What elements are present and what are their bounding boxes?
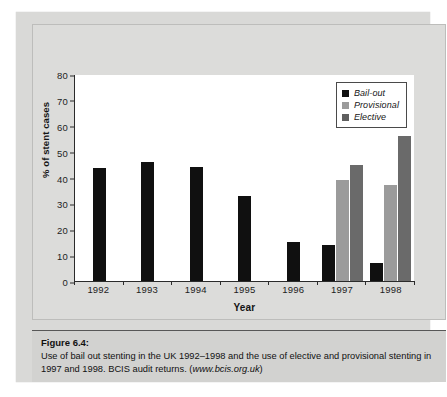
legend-label-elective: Elective <box>354 112 386 122</box>
bar-1997-bail-out <box>322 245 335 281</box>
y-tick-20: 20 <box>57 225 75 236</box>
plot-region: 80706050403020100 Bail-out Provisional <box>74 75 414 282</box>
x-tick-label-1992: 1992 <box>74 284 123 300</box>
caption-line-1: Use of bail out stenting in the UK 1992–… <box>41 351 431 361</box>
bar-1998-provisional <box>384 185 397 281</box>
chart-card: % of stent cases 80706050403020100 Bail-… <box>32 24 446 320</box>
bar-1994-bail-out <box>190 167 203 281</box>
caption-line-2-pre: 1997 and 1998. BCIS audit returns. ( <box>41 364 192 374</box>
y-tick-70: 70 <box>57 95 75 106</box>
x-tick-label-1998: 1998 <box>366 284 415 300</box>
y-tick-60: 60 <box>57 121 75 132</box>
y-tick-30: 30 <box>57 199 75 210</box>
legend-item-bail-out: Bail-out <box>342 87 399 99</box>
caption-url: www.bcis.org.uk <box>192 364 259 374</box>
y-axis-title: % of stent cases <box>40 102 51 178</box>
legend-item-provisional: Provisional <box>342 99 399 111</box>
bar-1992-bail-out <box>93 168 106 281</box>
bar-1997-elective <box>350 165 363 281</box>
y-tick-80: 80 <box>57 70 75 81</box>
caption-title: Figure 6.4: <box>41 337 437 348</box>
legend-swatch-bail-out <box>342 90 349 97</box>
y-tick-40: 40 <box>57 173 75 184</box>
bar-group-1992 <box>75 75 124 281</box>
x-tick-label-1993: 1993 <box>123 284 172 300</box>
bar-1998-elective <box>398 136 411 281</box>
legend-label-bail-out: Bail-out <box>354 88 385 98</box>
bar-1998-bail-out <box>370 263 383 281</box>
bar-1997-provisional <box>336 180 349 281</box>
x-tick-label-1994: 1994 <box>171 284 220 300</box>
bar-group-1995 <box>221 75 270 281</box>
figure-page: % of stent cases 80706050403020100 Bail-… <box>0 0 447 397</box>
y-tick-10: 10 <box>57 251 75 262</box>
bar-1993-bail-out <box>141 162 154 281</box>
x-axis-title: Year <box>74 302 415 313</box>
bar-group-1996 <box>269 75 318 281</box>
x-tick-label-1995: 1995 <box>220 284 269 300</box>
x-tick-label-1996: 1996 <box>269 284 318 300</box>
figure-caption: Figure 6.4: Use of bail out stenting in … <box>32 330 446 382</box>
caption-line-2-post: ) <box>260 364 263 374</box>
legend-swatch-provisional <box>342 102 349 109</box>
bar-1996-bail-out <box>287 242 300 281</box>
bar-group-1994 <box>172 75 221 281</box>
bar-1995-bail-out <box>238 196 251 281</box>
x-axis-labels: 1992199319941995199619971998 <box>74 284 415 300</box>
caption-text: Use of bail out stenting in the UK 1992–… <box>41 350 437 375</box>
legend-label-provisional: Provisional <box>354 100 399 110</box>
x-tick-label-1997: 1997 <box>318 284 367 300</box>
legend-swatch-elective <box>342 114 349 121</box>
chart-legend: Bail-out Provisional Elective <box>336 82 407 128</box>
bar-group-1993 <box>124 75 173 281</box>
figure-panel: % of stent cases 80706050403020100 Bail-… <box>16 12 430 382</box>
y-tick-50: 50 <box>57 147 75 158</box>
legend-item-elective: Elective <box>342 111 399 123</box>
